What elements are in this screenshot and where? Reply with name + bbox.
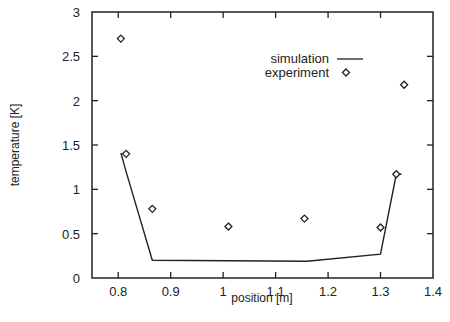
y-tick-label: 2.5: [62, 49, 80, 64]
y-tick-label: 0.5: [62, 227, 80, 242]
x-tick-label: 1.2: [319, 284, 337, 299]
experiment-diamond-marker: [225, 223, 232, 230]
y-tick-label: 3: [73, 5, 80, 20]
experiment-diamond-marker: [117, 35, 124, 42]
y-tick-label: 2: [73, 94, 80, 109]
x-tick-label: 1.4: [424, 284, 442, 299]
legend: simulation experiment: [265, 51, 363, 80]
y-axis-label: temperature [K]: [8, 104, 22, 187]
x-tick-label: 1.3: [371, 284, 389, 299]
plot-border: [92, 12, 433, 278]
y-axis-ticks: 00.511.522.53: [62, 5, 433, 286]
experiment-diamond-marker: [301, 215, 308, 222]
y-tick-label: 1.5: [62, 138, 80, 153]
simulation-line: [121, 153, 402, 261]
experiment-diamond-marker: [401, 81, 408, 88]
x-tick-label: 1: [220, 284, 227, 299]
experiment-diamond-marker: [377, 224, 384, 231]
experiment-diamond-marker: [393, 171, 400, 178]
plot-frame: [92, 12, 433, 278]
y-tick-label: 0: [73, 271, 80, 286]
legend-label-experiment: experiment: [265, 65, 330, 80]
experiment-markers: [117, 35, 407, 231]
experiment-diamond-marker: [149, 205, 156, 212]
simulation-polyline: [121, 153, 402, 261]
x-tick-label: 0.8: [109, 284, 127, 299]
x-axis-label: position [m]: [231, 291, 292, 305]
experiment-diamond-marker: [123, 150, 130, 157]
y-tick-label: 1: [73, 182, 80, 197]
legend-label-simulation: simulation: [270, 51, 329, 66]
legend-diamond-symbol: [343, 69, 350, 76]
chart: 0.80.911.11.21.31.4 00.511.522.53 positi…: [0, 0, 450, 322]
x-tick-label: 0.9: [162, 284, 180, 299]
